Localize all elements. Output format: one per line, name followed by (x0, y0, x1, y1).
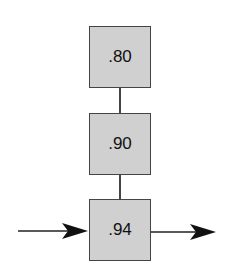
incoming-arrow-icon (18, 223, 88, 239)
outgoing-arrow-icon (151, 224, 216, 240)
arrows-layer (0, 0, 232, 279)
